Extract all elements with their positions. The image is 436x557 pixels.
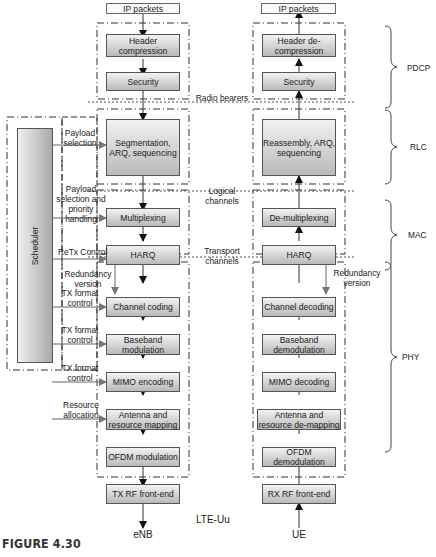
layer-phy: PHY	[402, 352, 419, 362]
ue-baseband-demodulation: Baseband demodulation	[262, 334, 336, 355]
interface-label: LTE-Uu	[196, 515, 230, 525]
ue-header-decompression: Header de-compression	[262, 34, 336, 57]
figure-caption: FIGURE 4.30	[2, 536, 81, 551]
ue-label: UE	[284, 530, 314, 540]
ue-antenna-demapping: Antenna and resource de-mapping	[257, 409, 341, 430]
ctrl-tx-format-2: TX format control	[60, 325, 100, 345]
layer-mac: MAC	[408, 230, 427, 240]
enb-segmentation: Segmentation, ARQ, sequencing	[106, 119, 180, 176]
ue-harq: HARQ	[262, 245, 336, 265]
enb-harq: HARQ	[106, 245, 180, 265]
enb-label: eNB	[128, 530, 158, 540]
ctrl-payload-selection: Payload selection	[62, 128, 98, 148]
ue-security: Security	[262, 72, 336, 91]
ue-ofdm-demodulation: OFDM demodulation	[262, 447, 336, 467]
ctrl-tx-format-3: TX format control	[60, 363, 100, 383]
enb-security: Security	[106, 72, 180, 91]
ue-channel-decoding: Channel decoding	[262, 297, 336, 317]
enb-baseband-modulation: Baseband modulation	[106, 334, 180, 355]
enb-tx-rf: TX RF front-end	[106, 484, 180, 504]
transport-channels-label: Transport channels	[194, 246, 250, 266]
scheduler-block: Scheduler	[17, 128, 53, 363]
ue-reassembly: Reassembly, ARQ, sequencing	[262, 119, 336, 176]
enb-channel-coding: Channel coding	[106, 297, 180, 317]
ctrl-resource-allocation: Resource allocation	[60, 400, 102, 420]
ue-demultiplexing: De-multiplexing	[262, 208, 336, 227]
enb-multiplexing: Multiplexing	[106, 208, 180, 227]
scheduler-label: Scheduler	[30, 226, 40, 265]
enb-header-compression: Header compression	[106, 34, 180, 57]
ue-redundancy-label: Redundancy version	[332, 268, 382, 288]
layer-rlc: RLC	[410, 142, 427, 152]
ue-rx-rf: RX RF front-end	[262, 484, 336, 504]
ctrl-payload-priority: Payload selection and priority handling	[56, 184, 106, 224]
logical-channels-label: Logical channels	[194, 186, 250, 206]
enb-ofdm-modulation: OFDM modulation	[106, 447, 180, 467]
ue-mimo-decoding: MIMO decoding	[262, 372, 336, 392]
ctrl-tx-format-1: TX format control	[60, 288, 100, 308]
enb-antenna-mapping: Antenna and resource mapping	[106, 409, 180, 430]
ctrl-retx: ReTx Control	[58, 247, 107, 257]
enb-ip-packets: IP packets	[106, 3, 180, 14]
ue-ip-packets: IP packets	[261, 3, 336, 14]
radio-bearers-label: Radio bearers	[194, 93, 250, 103]
enb-mimo-encoding: MIMO encoding	[106, 372, 180, 392]
layer-pdcp: PDCP	[407, 63, 430, 73]
ctrl-redundancy: Redundancy version	[64, 269, 112, 289]
